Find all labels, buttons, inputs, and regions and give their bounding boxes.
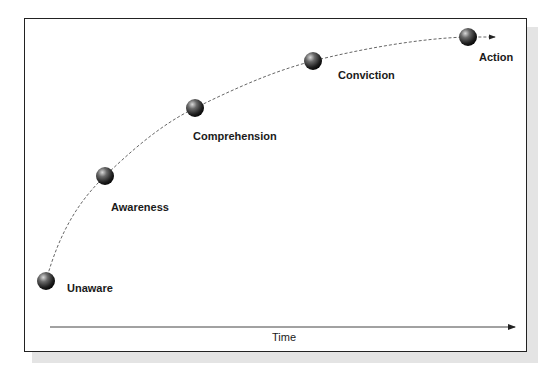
sphere-awareness [96, 167, 114, 185]
stage-label-awareness: Awareness [111, 201, 169, 213]
stage-label-comprehension: Comprehension [193, 130, 277, 142]
stage-label-action: Action [479, 51, 513, 63]
sphere-unaware [37, 272, 55, 290]
sphere-conviction [304, 52, 322, 70]
x-axis-label: Time [272, 331, 296, 343]
sphere-comprehension [186, 99, 204, 117]
stage-spheres [37, 28, 477, 290]
sphere-action [459, 28, 477, 46]
stage-label-conviction: Conviction [338, 69, 395, 81]
progression-curve [46, 37, 495, 281]
diagram-canvas [0, 0, 555, 371]
stage-label-unaware: Unaware [67, 282, 113, 294]
